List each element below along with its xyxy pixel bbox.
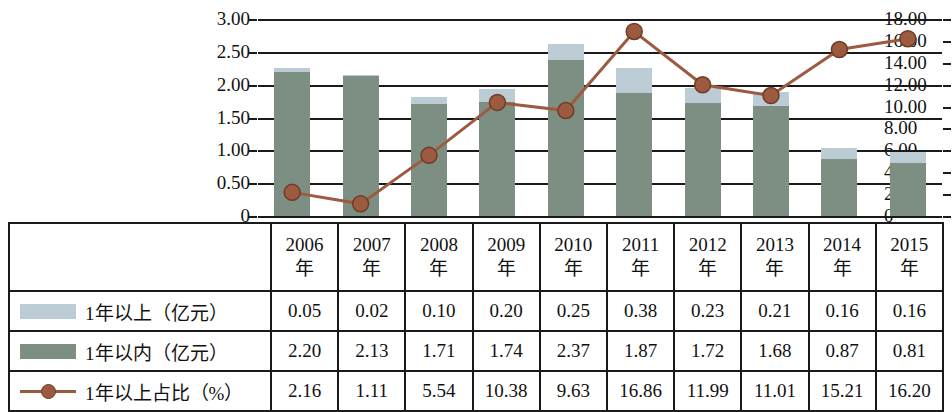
table-header-row: 2006年2007年2008年2009年2010年2011年2012年2013年… (9, 223, 943, 291)
legend-cell: 1年以上（亿元） (9, 291, 271, 331)
data-table: 2006年2007年2008年2009年2010年2011年2012年2013年… (8, 222, 944, 412)
left-axis-labels: 00.501.001.502.002.503.00 (190, 0, 250, 230)
year-number: 2006 (272, 233, 337, 257)
line-data-point-marker (626, 23, 642, 39)
table-value-cell: 2.13 (338, 331, 405, 371)
year-suffix: 年 (474, 257, 539, 281)
table-value-cell: 9.63 (540, 371, 607, 411)
right-axis-tick (943, 41, 951, 43)
line-data-point-marker (353, 196, 369, 212)
table-value-cell: 16.86 (607, 371, 674, 411)
table-value-cell: 2.16 (271, 371, 338, 411)
year-suffix: 年 (541, 257, 606, 281)
table-value-cell: 5.54 (405, 371, 472, 411)
right-axis-tick (943, 19, 951, 21)
table-year-header: 2008年 (405, 223, 472, 291)
table-value-cell: 2.20 (271, 331, 338, 371)
table-value-cell: 0.38 (607, 291, 674, 331)
table-year-header: 2006年 (271, 223, 338, 291)
table-year-header: 2012年 (674, 223, 741, 291)
table-value-cell: 0.81 (876, 331, 943, 371)
left-axis-tick (249, 216, 257, 218)
table-year-header: 2011年 (607, 223, 674, 291)
year-suffix: 年 (742, 257, 807, 281)
left-axis-tick-label: 2.00 (217, 75, 250, 94)
year-number: 2014 (810, 233, 875, 257)
table-value-cell: 0.16 (809, 291, 876, 331)
right-axis-tick (943, 172, 951, 174)
right-axis-tick (943, 128, 951, 130)
left-axis-tick-label: 1.50 (217, 108, 250, 127)
left-axis-tick (249, 19, 257, 21)
plot-area (258, 19, 942, 218)
left-axis-tick-label: 3.00 (217, 9, 250, 28)
legend-label: 1年以上（亿元） (85, 298, 228, 325)
line-data-point-marker (421, 147, 437, 163)
right-axis-tick (943, 63, 951, 65)
legend-cell: 1年以内（亿元） (9, 331, 271, 371)
line-data-point-marker (489, 94, 505, 110)
table-value-cell: 0.05 (271, 291, 338, 331)
table-value-cell: 11.01 (741, 371, 808, 411)
left-axis-tick (249, 150, 257, 152)
right-axis-tick (943, 85, 951, 87)
legend-cell: 1年以上占比（%） (9, 371, 271, 411)
legend-label: 1年以内（亿元） (85, 338, 228, 365)
line-data-point-marker (558, 103, 574, 119)
year-number: 2007 (339, 233, 404, 257)
table-value-cell: 11.99 (674, 371, 741, 411)
line-data-point-marker (763, 88, 779, 104)
year-suffix: 年 (877, 257, 942, 281)
table-year-header: 2009年 (473, 223, 540, 291)
table-row: 1年以上（亿元）0.050.020.100.200.250.380.230.21… (9, 291, 943, 331)
legend-color-swatch-icon (20, 344, 76, 359)
year-suffix: 年 (608, 257, 673, 281)
table-value-cell: 0.25 (540, 291, 607, 331)
left-axis-tick-label: 2.50 (217, 42, 250, 61)
table-corner-blank-cell (9, 223, 271, 291)
table-year-header: 2013年 (741, 223, 808, 291)
percentage-line-path (292, 31, 908, 203)
year-number: 2013 (742, 233, 807, 257)
table-value-cell: 1.87 (607, 331, 674, 371)
legend-line-marker-icon (20, 383, 76, 399)
table-value-cell: 0.20 (473, 291, 540, 331)
left-axis-tick (249, 52, 257, 54)
table-value-cell: 1.71 (405, 331, 472, 371)
chart-figure: 00.501.001.502.002.503.00 02.004.006.008… (0, 0, 952, 230)
left-axis-tick-label: 1.00 (217, 140, 250, 159)
year-suffix: 年 (675, 257, 740, 281)
line-data-point-marker (831, 42, 847, 58)
table-year-header: 2007年 (338, 223, 405, 291)
left-axis-tick (249, 85, 257, 87)
table-value-cell: 15.21 (809, 371, 876, 411)
year-suffix: 年 (810, 257, 875, 281)
table-year-header: 2014年 (809, 223, 876, 291)
table-value-cell: 1.74 (473, 331, 540, 371)
table-value-cell: 1.11 (338, 371, 405, 411)
year-suffix: 年 (406, 257, 471, 281)
right-axis-tick (943, 150, 951, 152)
table-value-cell: 0.23 (674, 291, 741, 331)
percentage-line-series (258, 19, 942, 216)
table-year-header: 2010年 (540, 223, 607, 291)
year-number: 2012 (675, 233, 740, 257)
right-axis-tick (943, 107, 951, 109)
table-row: 1年以上占比（%）2.161.115.5410.389.6316.8611.99… (9, 371, 943, 411)
year-suffix: 年 (339, 257, 404, 281)
table-row: 1年以内（亿元）2.202.131.711.742.371.871.721.68… (9, 331, 943, 371)
line-data-point-marker (900, 31, 916, 47)
year-number: 2008 (406, 233, 471, 257)
table-value-cell: 0.21 (741, 291, 808, 331)
right-axis-tick (943, 194, 951, 196)
table-value-cell: 10.38 (473, 371, 540, 411)
year-number: 2009 (474, 233, 539, 257)
line-data-point-marker (695, 77, 711, 93)
table-value-cell: 0.16 (876, 291, 943, 331)
table-value-cell: 2.37 (540, 331, 607, 371)
line-data-point-marker (284, 184, 300, 200)
legend-color-swatch-icon (20, 304, 76, 319)
left-axis-tick (249, 118, 257, 120)
right-axis-tick (943, 216, 951, 218)
table-value-cell: 1.72 (674, 331, 741, 371)
